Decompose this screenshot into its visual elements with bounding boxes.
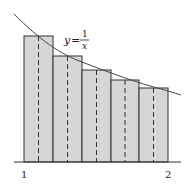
label-num: 1 [82, 29, 88, 39]
tick-label-2: 2 [165, 169, 171, 180]
label-y: y [63, 34, 71, 47]
tick-label-1: 1 [21, 169, 27, 180]
midpoint-rule-diagram: y = 1 x 1 2 [0, 0, 191, 188]
label-eq: = [71, 34, 80, 47]
function-label: y = 1 x [63, 29, 89, 51]
rectangle-3 [82, 70, 111, 162]
label-den: x [82, 41, 87, 51]
